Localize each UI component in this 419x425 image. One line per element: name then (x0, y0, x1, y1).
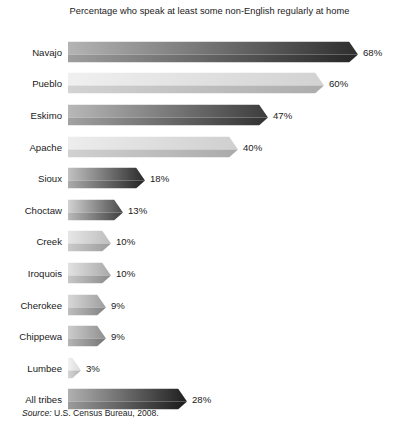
bar-and-value: 28% (68, 389, 211, 410)
bar-and-value: 9% (68, 326, 125, 347)
bar (68, 294, 106, 315)
bar-category-label: Lumbee (27, 362, 62, 373)
bar-category-label: Cherokee (20, 299, 62, 310)
bar-category-label: Creek (36, 236, 62, 247)
bar-category-label: Chippewa (19, 331, 62, 342)
bar-category-label: Sioux (38, 173, 62, 184)
bar (68, 389, 187, 410)
bar-row: Cherokee9% (0, 289, 419, 321)
bar-value-label: 9% (111, 331, 125, 342)
bar-row: Navajo68% (0, 36, 419, 68)
bar-value-label: 68% (363, 46, 382, 57)
bar-category-label: Pueblo (32, 78, 62, 89)
bar (68, 73, 324, 94)
bar-category-label: All tribes (25, 394, 62, 405)
source-note: Source: U.S. Census Bureau, 2008. (22, 408, 159, 418)
bar-and-value: 18% (68, 168, 169, 189)
bar-and-value: 47% (68, 104, 292, 125)
bar-and-value: 10% (68, 231, 135, 252)
source-text: U.S. Census Bureau, 2008. (52, 408, 159, 418)
bar (68, 326, 106, 347)
chart-title: Percentage who speak at least some non-E… (0, 6, 419, 16)
bar (68, 357, 81, 378)
bar-value-label: 47% (273, 109, 292, 120)
bar-row: Choctaw13% (0, 194, 419, 226)
bar-value-label: 10% (116, 267, 135, 278)
bar-category-label: Choctaw (25, 204, 62, 215)
bar-and-value: 60% (68, 73, 348, 94)
bar-category-label: Iroquois (28, 267, 62, 278)
bar-and-value: 40% (68, 136, 262, 157)
bar (68, 231, 111, 252)
chart-page: Percentage who speak at least some non-E… (0, 0, 419, 425)
bar-category-label: Apache (29, 141, 62, 152)
bar-row: Iroquois10% (0, 257, 419, 289)
bar-row: Lumbee3% (0, 352, 419, 384)
bar-row: Creek10% (0, 226, 419, 258)
bar-value-label: 28% (192, 394, 211, 405)
bar-value-label: 13% (128, 204, 147, 215)
bar-and-value: 9% (68, 294, 125, 315)
bar-and-value: 68% (68, 41, 382, 62)
bar (68, 136, 238, 157)
bar (68, 262, 111, 283)
bar-value-label: 9% (111, 299, 125, 310)
bar-rows: Navajo68%Pueblo60%Eskimo47%Apache40%Siou… (0, 36, 419, 415)
bar-value-label: 60% (329, 78, 348, 89)
bar-and-value: 3% (68, 357, 100, 378)
bar (68, 41, 358, 62)
bar (68, 168, 145, 189)
bar-value-label: 3% (86, 362, 100, 373)
bar-category-label: Eskimo (31, 109, 62, 120)
source-label: Source: (22, 408, 52, 418)
bar (68, 199, 123, 220)
bar-row: Sioux18% (0, 162, 419, 194)
bar-row: Chippewa9% (0, 320, 419, 352)
bar-category-label: Navajo (32, 46, 62, 57)
bar-value-label: 10% (116, 236, 135, 247)
bar-and-value: 10% (68, 262, 135, 283)
bar-and-value: 13% (68, 199, 147, 220)
bar-row: Pueblo60% (0, 68, 419, 100)
bar-value-label: 40% (243, 141, 262, 152)
bar-value-label: 18% (150, 173, 169, 184)
bar-row: Eskimo47% (0, 99, 419, 131)
bar-row: Apache40% (0, 131, 419, 163)
bar (68, 104, 268, 125)
